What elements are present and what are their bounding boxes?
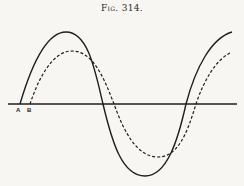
label-a: A [16, 107, 21, 113]
label-b: B [27, 107, 32, 113]
wave-diagram: A B [0, 0, 244, 186]
